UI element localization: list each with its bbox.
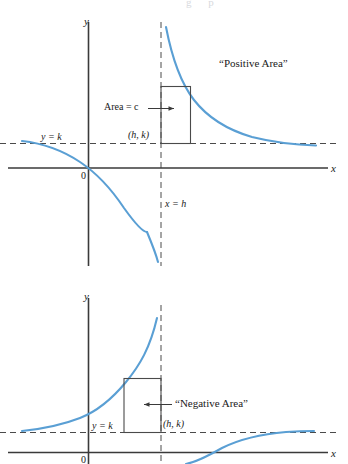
origin-label-top: 0	[81, 171, 86, 181]
anchor-point-label-bottom: (h, k)	[163, 419, 184, 429]
asymptote-label-x-equals-h-top: x = h	[165, 199, 186, 209]
figure-canvas	[0, 0, 348, 464]
y-axis-label-top: y	[84, 16, 89, 27]
anchor-point-label-top: (h, k)	[128, 130, 149, 140]
asymptote-label-y-equals-k-top: y = k	[41, 132, 62, 142]
y-axis-label-bottom: y	[84, 291, 89, 302]
asymptote-label-y-equals-k-bottom: y = k	[92, 421, 113, 431]
area-equals-c-label: Area = c	[104, 102, 139, 112]
area-callout-arrow-bottom	[144, 402, 172, 407]
curve-left-branch-top-tail	[147, 232, 158, 262]
origin-label-bottom: 0	[81, 455, 86, 464]
area-rectangle-bottom	[124, 379, 161, 433]
negative-area-callout: “Negative Area”	[175, 398, 248, 409]
x-axis-label-top: x	[331, 163, 336, 174]
curve-left-branch-top	[22, 141, 147, 232]
curve-left-branch-bottom	[22, 318, 157, 431]
positive-area-callout: “Positive Area”	[219, 58, 288, 69]
area-rectangle-top	[161, 87, 191, 144]
curve-right-branch-bottom	[186, 431, 314, 464]
x-axis-label-bottom: x	[331, 448, 336, 459]
panel-negative-area	[0, 298, 340, 464]
